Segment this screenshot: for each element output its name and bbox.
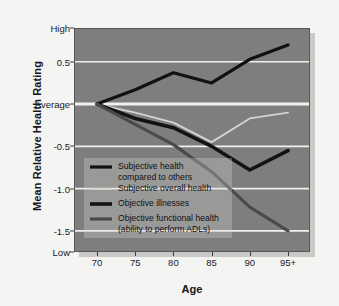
y-tick-label: High [4, 23, 70, 34]
legend-label: Objective functional health (ability to … [118, 213, 219, 234]
y-tick-mark [70, 188, 74, 189]
legend-swatch-icon [90, 217, 112, 221]
legend-label: Subjective overall health [118, 183, 211, 194]
x-tick-label: 85 [192, 257, 232, 268]
y-tick-mark [70, 28, 74, 29]
x-tick-label: 90 [230, 257, 270, 268]
x-tick-label: 75 [115, 257, 155, 268]
y-axis-title: Mean Relative Health Rating [31, 41, 43, 231]
chart-figure: High0.5Average-0.5-1.0-1.5Low 7075808590… [0, 0, 339, 306]
y-tick-mark [70, 146, 74, 147]
x-tick-mark [212, 252, 213, 256]
x-tick-mark [173, 252, 174, 256]
legend-label: Objective illnesses [118, 198, 189, 209]
legend-item-3: Objective functional health (ability to … [90, 213, 219, 234]
x-tick-mark [97, 252, 98, 256]
x-tick-mark [135, 252, 136, 256]
x-tick-mark [288, 252, 289, 256]
series-line-0 [97, 45, 288, 104]
legend-swatch-icon [90, 202, 112, 206]
y-tick-mark [70, 61, 74, 62]
y-tick-mark [70, 104, 74, 105]
chart-legend: Subjective health compared to othersSubj… [84, 158, 232, 238]
y-tick-label: Low [4, 247, 70, 258]
legend-label: Subjective health compared to others [118, 161, 192, 182]
x-tick-mark [250, 252, 251, 256]
legend-item-0: Subjective health compared to others [90, 161, 192, 182]
legend-swatch-icon [90, 187, 112, 191]
x-axis-title: Age [74, 283, 310, 295]
legend-item-2: Objective illnesses [90, 198, 189, 209]
x-tick-label: 95+ [268, 257, 308, 268]
legend-swatch-icon [90, 165, 112, 169]
y-tick-mark [70, 230, 74, 231]
x-tick-label: 80 [153, 257, 193, 268]
legend-item-1: Subjective overall health [90, 183, 211, 194]
x-tick-label: 70 [77, 257, 117, 268]
y-tick-mark [70, 252, 74, 253]
